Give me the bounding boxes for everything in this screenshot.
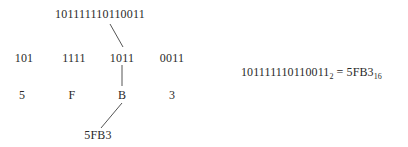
equation-binary: 101111110110011 — [241, 65, 329, 79]
conversion-equation: 1011111101100112 = 5FB316 — [241, 65, 382, 79]
connector-binary-to-group — [110, 24, 123, 47]
binary-group-3: 1011 — [110, 51, 134, 65]
equation-binary-base: 2 — [329, 72, 333, 81]
hex-digit-4: 3 — [169, 88, 175, 102]
binary-number: 101111110110011 — [55, 7, 145, 21]
binary-group-2: 1111 — [62, 51, 85, 65]
hex-digit-3: B — [118, 88, 126, 102]
hex-digit-1: 5 — [19, 88, 25, 102]
hex-result: 5FB3 — [84, 128, 111, 142]
hex-digit-2: F — [69, 88, 76, 102]
connector-hex-to-result — [101, 103, 122, 128]
binary-group-1: 101 — [15, 51, 34, 65]
equation-hex-base: 16 — [374, 72, 382, 81]
equation-equals: = — [337, 65, 344, 79]
binary-group-4: 0011 — [160, 51, 184, 65]
equation-hex: 5FB3 — [347, 65, 374, 79]
